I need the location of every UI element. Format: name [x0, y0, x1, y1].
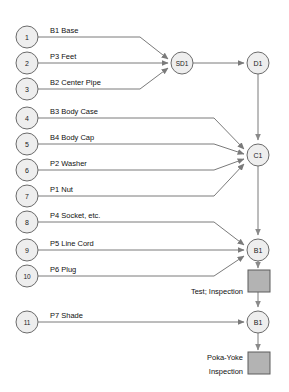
operation-node-b1-lower[interactable]: B1	[247, 311, 269, 333]
operation-node-c1[interactable]: C1	[247, 144, 269, 166]
operation-node-sd1[interactable]: SD1	[171, 52, 193, 74]
part-node-1-label: 1	[25, 34, 29, 41]
part-label-5: B4 Body Cap	[50, 133, 94, 142]
part-node-8-label: 8	[25, 219, 29, 226]
part-node-11[interactable]: 11	[16, 311, 38, 333]
part-label-7: P1 Nut	[50, 185, 74, 194]
part-node-2[interactable]: 2	[16, 52, 38, 74]
test-inspection-box[interactable]	[248, 270, 270, 292]
edge-5-c1	[38, 144, 244, 154]
part-node-4[interactable]: 4	[16, 107, 38, 129]
part-node-5-label: 5	[25, 141, 29, 148]
part-node-8[interactable]: 8	[16, 211, 38, 233]
part-node-6-label: 6	[25, 167, 29, 174]
part-label-4: B3 Body Case	[50, 107, 98, 116]
part-label-2: P3 Feet	[50, 52, 77, 61]
part-node-10[interactable]: 10	[16, 265, 38, 287]
part-node-9[interactable]: 9	[16, 239, 38, 261]
part-node-11-label: 11	[24, 319, 31, 326]
part-node-7[interactable]: 7	[16, 185, 38, 207]
part-node-3-label: 3	[25, 86, 29, 93]
part-node-5[interactable]: 5	[16, 133, 38, 155]
poka-yoke-label-line-2: Inspection	[209, 367, 243, 376]
part-label-11: P7 Shade	[50, 311, 83, 320]
part-label-6: P2 Washer	[50, 159, 87, 168]
part-node-6[interactable]: 6	[16, 159, 38, 181]
poka-yoke-inspection-box[interactable]	[248, 352, 270, 374]
operation-node-d1[interactable]: D1	[247, 52, 269, 74]
operation-node-sd1-label: SD1	[176, 60, 189, 67]
poka-yoke-label-line-1: Poka-Yoke	[207, 353, 243, 362]
part-label-3: B2 Center Pipe	[50, 78, 101, 87]
main-flow-spine	[193, 63, 258, 350]
part-node-3[interactable]: 3	[16, 78, 38, 100]
part-node-9-label: 9	[25, 247, 29, 254]
test-inspection-label: Test; Inspection	[191, 287, 243, 296]
operation-node-c1-label: C1	[254, 152, 263, 159]
precedence-diagram: 1 2 3 4 5 6 7 8	[0, 0, 289, 392]
diagram-canvas: 1 2 3 4 5 6 7 8	[0, 0, 289, 392]
operation-node-b1-upper-label: B1	[254, 247, 263, 254]
part-node-1[interactable]: 1	[16, 26, 38, 48]
part-label-10: P6 Plug	[50, 265, 76, 274]
operation-node-b1-upper[interactable]: B1	[247, 239, 269, 261]
part-node-7-label: 7	[25, 193, 29, 200]
operation-node-b1-lower-label: B1	[254, 319, 263, 326]
part-node-10-label: 10	[23, 273, 31, 280]
part-node-4-label: 4	[25, 115, 29, 122]
part-label-1: B1 Base	[50, 26, 78, 35]
operation-node-d1-label: D1	[254, 60, 263, 67]
part-label-9: P5 Line Cord	[50, 239, 94, 248]
part-node-2-label: 2	[25, 60, 29, 67]
part-label-8: P4 Socket, etc.	[50, 211, 100, 220]
